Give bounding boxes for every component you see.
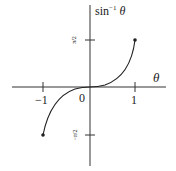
y-axis-label: sin−1 θ — [95, 4, 125, 19]
y-tick-label-pi2: π/2 — [71, 36, 77, 44]
ylabel-base: sin — [95, 4, 109, 18]
x-axis-label: θ — [153, 70, 159, 86]
x-tick-label-0: 0 — [79, 91, 85, 106]
x-tick-label-neg1: −1 — [35, 93, 48, 108]
plot-area — [0, 0, 176, 171]
y-tick-label-neg-pi2: −π/2 — [72, 129, 78, 140]
endpoint-bottom — [41, 133, 45, 137]
x-tick-label-1: 1 — [131, 93, 137, 108]
endpoint-top — [133, 38, 137, 42]
ylabel-var: θ — [116, 4, 125, 18]
